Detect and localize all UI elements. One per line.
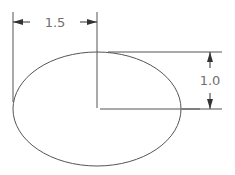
horizontal-dimension-label: 1.5 <box>45 15 66 30</box>
vertical-dimension-label: 1.0 <box>200 73 221 88</box>
ellipse-drawing: 1.5 1.0 <box>0 0 235 175</box>
